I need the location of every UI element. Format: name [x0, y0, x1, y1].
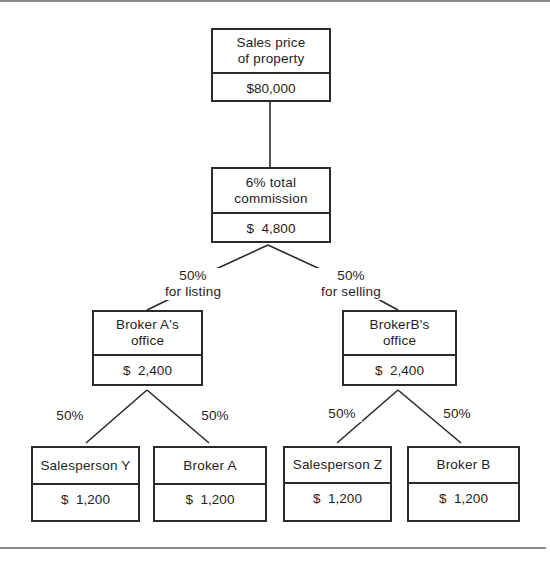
node-title: 6% total commission — [213, 169, 329, 214]
node-amount: $ 1,200 — [285, 484, 390, 520]
edge-label-a-to-broker-a: 50% — [195, 408, 235, 424]
node-broker-a-office: Broker A's office $ 2,400 — [92, 310, 203, 386]
selling-text: for selling — [311, 284, 391, 300]
node-amount: $80,000 — [213, 74, 329, 100]
node-amount: $ 4,800 — [213, 214, 329, 241]
selling-percent: 50% — [311, 268, 391, 284]
node-broker-a: Broker A $ 1,200 — [153, 446, 267, 522]
node-amount: $ 1,200 — [155, 485, 265, 520]
listing-text: for listing — [153, 284, 233, 300]
edge-broker-a-office-to-salesperson-y — [86, 390, 147, 443]
edge-label-listing: 50% for listing — [153, 268, 233, 300]
node-broker-b-office: BrokerB's office $ 2,400 — [342, 310, 457, 386]
node-amount: $ 1,200 — [409, 484, 518, 520]
node-title: Salesperson Y — [33, 448, 138, 485]
node-salesperson-y: Salesperson Y $ 1,200 — [31, 446, 140, 522]
edge-label-b-to-salesperson-z: 50% — [322, 406, 362, 422]
title-line-1: Broker A's — [116, 317, 179, 333]
edge-label-a-to-salesperson-y: 50% — [50, 408, 90, 424]
node-amount: $ 1,200 — [33, 485, 138, 520]
title-line-2: commission — [234, 191, 307, 207]
node-salesperson-z: Salesperson Z $ 1,200 — [283, 446, 392, 522]
node-title: Broker A's office — [94, 312, 201, 356]
node-broker-b: Broker B $ 1,200 — [407, 446, 520, 522]
node-title: Sales price of property — [213, 30, 329, 74]
bottom-rule — [0, 547, 546, 549]
node-sales-price: Sales price of property $80,000 — [211, 28, 331, 102]
listing-percent: 50% — [153, 268, 233, 284]
title-line-1: 6% total — [246, 175, 296, 191]
node-title: Salesperson Z — [285, 448, 390, 484]
node-title: Broker B — [409, 448, 518, 484]
node-title: Broker A — [155, 448, 265, 485]
title-line-2: office — [383, 333, 416, 349]
node-title: BrokerB's office — [344, 312, 455, 356]
edge-label-selling: 50% for selling — [311, 268, 391, 300]
node-amount: $ 2,400 — [94, 356, 201, 384]
title-line-2: of property — [238, 51, 305, 67]
title-line-2: office — [131, 333, 164, 349]
title-line-1: Sales price — [237, 35, 306, 51]
node-total-commission: 6% total commission $ 4,800 — [211, 167, 331, 243]
node-amount: $ 2,400 — [344, 356, 455, 384]
edge-label-b-to-broker-b: 50% — [437, 406, 477, 422]
title-line-1: BrokerB's — [370, 317, 430, 333]
